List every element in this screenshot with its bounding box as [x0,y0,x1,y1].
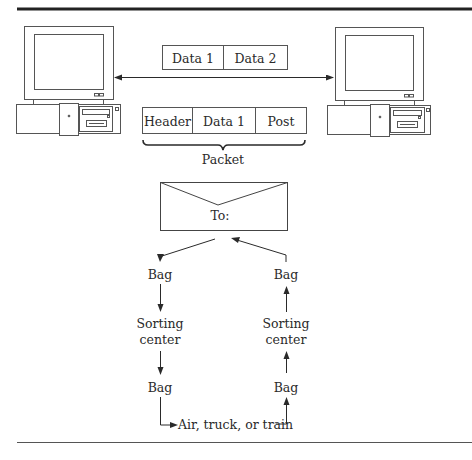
left-bag-bottom: Bag [140,380,180,396]
left-computer-icon [17,27,121,136]
left-sorting-line2: center [125,332,195,348]
top-packet-cell-data1: Data 1 [163,46,223,70]
arrowhead-down-icon [157,254,164,262]
right-sorting-line2: center [251,332,321,348]
arrow-bag-to-transport [161,397,173,425]
right-sorting-center: Sorting center [251,316,321,347]
arrowhead-up-icon [284,397,290,405]
arrowhead-down-icon [158,304,164,312]
left-bag-top: Bag [140,267,180,283]
right-bag-top: Bag [266,267,306,283]
right-computer-icon [328,28,431,137]
arrowhead-up-icon [231,237,240,243]
arrowhead-left-icon [114,75,122,81]
arrow-bag-to-envelope [237,240,286,262]
arrowhead-right-icon [170,422,178,428]
right-bag-bottom: Bag [266,380,306,396]
right-sorting-line1: Sorting [251,316,321,332]
packet-brace-icon [143,140,305,150]
top-packet-cell-data2: Data 2 [224,46,287,70]
envelope-to-label: To: [200,208,240,224]
arrow-envelope-to-bag [162,239,215,256]
arrowhead-up-icon [284,286,290,294]
framed-packet-cell-header: Header [143,108,192,134]
transport-label: Air, truck, or train [178,417,274,433]
left-sorting-line1: Sorting [125,316,195,332]
framed-packet-cell-data1: Data 1 [193,108,255,134]
left-sorting-center: Sorting center [125,316,195,347]
arrowhead-down-icon [158,367,164,375]
arrowhead-up-icon [284,351,290,359]
packet-label: Packet [193,152,253,168]
framed-packet-cell-post: Post [256,108,306,134]
